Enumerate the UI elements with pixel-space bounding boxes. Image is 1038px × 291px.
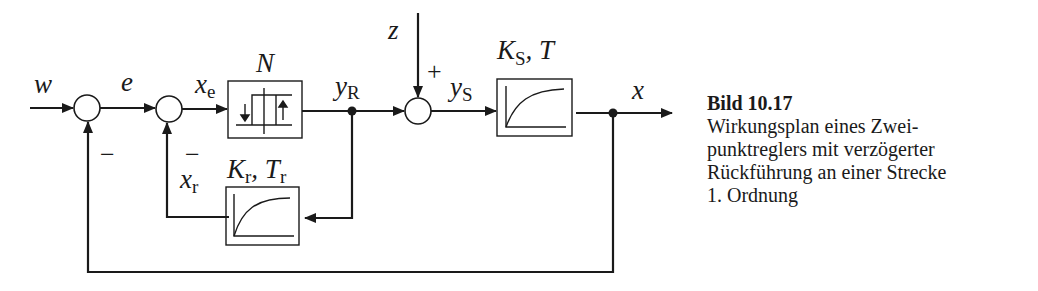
sign-plus-disturbance: + [427,57,442,86]
label-KS-T: KS, T [496,35,556,69]
summing-junction-disturbance [405,98,431,124]
label-e: e [121,67,133,97]
caption-line: Wirkungsplan eines Zwei- [707,115,1037,138]
branch-point-x [609,109,618,118]
caption-line: Rückführung an einer Strecke [707,161,1037,184]
nonlinear-block [228,81,302,138]
label-Kr-Tr: Kr, Tr [226,154,287,187]
branch-point-yR [348,107,357,116]
label-z: z [387,15,399,45]
label-w: w [34,69,52,99]
feedback-step-response-icon [234,194,294,236]
label-yR: yR [332,71,360,103]
label-x: x [631,75,644,105]
hysteresis-relay-icon [236,88,292,134]
inner-feedback-path-in [305,111,352,218]
sign-minus-outer: − [100,140,115,169]
label-yS: yS [447,72,473,105]
first-order-step-response-icon [506,86,566,127]
summing-junction-2 [156,96,182,122]
caption-title: Bild 10.17 [707,92,1037,115]
label-N: N [255,48,276,78]
figure-caption: Bild 10.17 Wirkungsplan eines Zwei- punk… [707,92,1037,207]
inner-feedback-path-out [167,123,229,217]
label-xe: xe [194,69,215,102]
caption-line: punktreglers mit verzögerter [707,138,1037,161]
summing-junction-1 [74,95,100,121]
caption-line: 1. Ordnung [707,184,1037,207]
